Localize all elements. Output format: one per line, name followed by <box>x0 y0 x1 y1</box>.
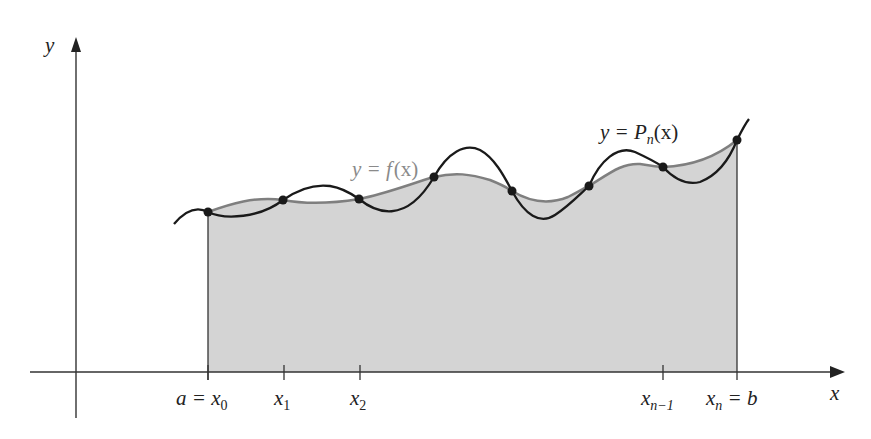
pn-label-fn: P <box>633 120 647 144</box>
tick-label-x1: x1 <box>273 386 290 413</box>
tick-label-x0: a = x0 <box>176 386 228 413</box>
tick-label-xn-1: xn−1 <box>640 386 674 413</box>
tick-label-x0-sub: 0 <box>221 398 228 413</box>
node-5 <box>585 182 594 191</box>
tick-label-x1-sub: 1 <box>283 398 290 413</box>
tick-label-x2: x2 <box>349 386 366 413</box>
x-axis-arrow-icon <box>830 366 845 378</box>
node-7 <box>733 136 742 145</box>
y-axis-label: y <box>43 33 55 57</box>
tick-label-x2-sub: 2 <box>359 398 366 413</box>
f-curve-label: y = f(x) <box>350 157 418 181</box>
tick-label-xn-sub: n <box>715 398 722 413</box>
pn-label-arg: (x) <box>654 120 679 144</box>
y-axis-arrow-icon <box>71 37 81 52</box>
tick-label-xn: xn = b <box>705 386 758 413</box>
node-4 <box>508 187 517 196</box>
pn-curve-label: y = Pn(x) <box>598 120 678 147</box>
node-0 <box>204 208 213 217</box>
node-3 <box>430 173 439 182</box>
tick-label-xn-suffix: = b <box>722 386 757 410</box>
tick-label-xn-1-sub: n−1 <box>650 398 673 413</box>
node-1 <box>279 196 288 205</box>
node-2 <box>355 195 364 204</box>
interpolation-diagram: y x y = f(x) y = Pn(x) a = x0 x1 x2 xn−1… <box>0 0 871 439</box>
pn-label-lhs: y = <box>598 120 634 144</box>
pn-label-sub: n <box>647 132 654 147</box>
f-label-lhs: y = <box>350 157 386 181</box>
f-label-arg: (x) <box>394 157 419 181</box>
x-axis-label: x <box>829 381 840 405</box>
node-6 <box>659 163 668 172</box>
tick-label-x0-main: a = x <box>176 386 221 410</box>
